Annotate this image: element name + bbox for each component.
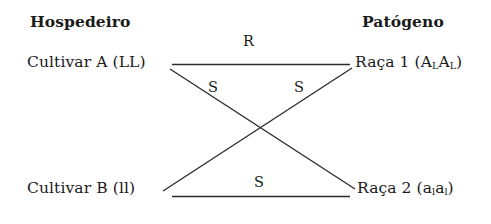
gene-for-gene-diagram: Hospedeiro Patógeno Cultivar A (LL) Cult… — [0, 0, 491, 224]
pathogen-column-header: Patógeno — [362, 14, 444, 30]
host-column-header: Hospedeiro — [30, 14, 131, 30]
edge-label-susceptible-bottom: S — [254, 175, 264, 190]
node-cultivar-b: Cultivar B (ll) — [27, 181, 135, 197]
node-raca-2: Raça 2 (alal) — [357, 181, 454, 197]
edge-label-resistant: R — [243, 34, 254, 49]
node-raca-1-mid: A — [438, 53, 449, 71]
node-cultivar-a: Cultivar A (LL) — [27, 55, 146, 71]
node-raca-2-suffix: ) — [448, 179, 454, 197]
edge-line-cultivarA-raca2 — [170, 69, 355, 189]
edge-label-susceptible-left: S — [208, 80, 218, 95]
node-raca-1-suffix: ) — [456, 53, 462, 71]
node-raca-2-mid: a — [435, 179, 444, 197]
edge-line-cultivarB-raca1 — [163, 68, 352, 191]
node-raca-1-prefix: Raça 1 (A — [355, 53, 432, 71]
edge-label-susceptible-right: S — [294, 80, 304, 95]
node-raca-2-prefix: Raça 2 (a — [357, 179, 432, 197]
node-raca-1: Raça 1 (ALAL) — [355, 55, 462, 71]
